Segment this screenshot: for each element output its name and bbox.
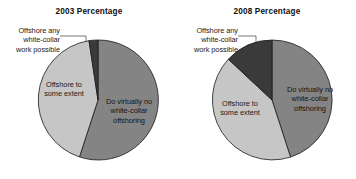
chart-panel-2008: 2008 Percentage Offshore any white-colla… [178, 0, 356, 179]
pie-label-offshore-to-some-extent-2003: Offshore to some extent [34, 80, 94, 99]
pie-label-do-virtually-no-offshoring-2003: Do virtually no white-collar offshoring [98, 97, 160, 125]
chart-panel-2003: 2003 Percentage Offshore any white-colla… [0, 0, 178, 179]
pie-label-offshore-any-work-possible-2008: Offshore any white-collar work possible [180, 26, 238, 54]
pie-label-offshore-to-some-extent-2008: Offshore to some extent [210, 99, 270, 118]
pie-chart-figure: 2003 Percentage Offshore any white-colla… [0, 0, 356, 179]
pie-label-do-virtually-no-offshoring-2008: Do virtually no white-collar offshoring [279, 85, 341, 113]
pie-label-offshore-any-work-possible-2003: Offshore any white-collar work possible [2, 26, 60, 54]
